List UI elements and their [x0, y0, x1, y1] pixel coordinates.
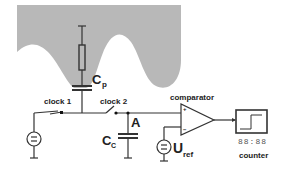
uref-label: U: [173, 140, 183, 156]
counter-label: counter: [239, 151, 268, 160]
clock1-label: clock 1: [44, 97, 72, 106]
cc-subscript: C: [111, 142, 116, 149]
comparator-label: comparator: [170, 93, 214, 102]
node-a-dot: [126, 111, 129, 114]
step-signal-icon: [240, 115, 262, 129]
circuit-diagram: C p clock 1 clock 2 A C C comparator + −…: [0, 0, 288, 174]
uref-source-icon: [157, 140, 171, 154]
voltage-source-icon: [27, 132, 41, 146]
minus-input-sign: −: [183, 127, 187, 133]
clock2-switch: [106, 106, 114, 113]
clock2-label: clock 2: [100, 97, 128, 106]
clock2-contact: [114, 111, 117, 114]
cp-subscript: p: [102, 80, 107, 89]
uref-subscript: ref: [183, 150, 194, 159]
clock1-contact: [60, 111, 63, 114]
cp-label: C: [92, 72, 102, 87]
counter-display: 88:88: [238, 137, 267, 146]
node-a-label: A: [131, 115, 141, 130]
plus-input-sign: +: [183, 106, 187, 112]
